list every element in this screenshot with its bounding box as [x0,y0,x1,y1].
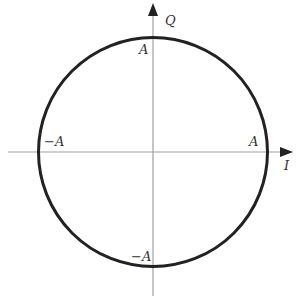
q-axis-arrow-icon [148,3,158,16]
top-amplitude-label: A [138,42,148,57]
diagram-svg: Q I A −A −A A [0,0,301,300]
i-axis-label: I [283,158,290,173]
right-amplitude-label: A [248,134,258,149]
iq-diagram: Q I A −A −A A [0,0,301,300]
q-axis-label: Q [165,13,176,28]
left-amplitude-label: −A [44,134,64,149]
i-axis-arrow-icon [280,147,293,157]
bottom-amplitude-label: −A [131,249,151,264]
